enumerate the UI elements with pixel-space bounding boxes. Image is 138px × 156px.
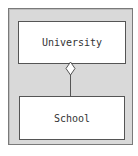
class-box-school: School (19, 96, 125, 140)
aggregation-diamond-icon (66, 62, 75, 75)
class-label-school: School (54, 113, 90, 124)
